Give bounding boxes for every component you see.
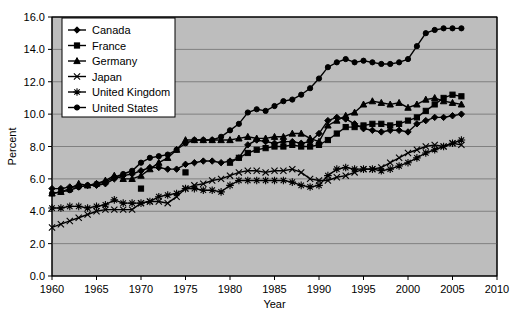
x-tick-label: 1970 <box>129 283 153 295</box>
data-point-france <box>423 108 428 113</box>
data-point-france <box>370 121 375 126</box>
data-point-france <box>183 170 188 175</box>
data-point-united-kingdom <box>422 149 430 157</box>
data-point-united-states <box>112 175 117 180</box>
x-tick-label: 1975 <box>173 283 197 295</box>
data-point-united-kingdom <box>244 177 252 185</box>
data-point-united-states <box>299 92 304 97</box>
legend-label-canada: Canada <box>92 24 131 36</box>
data-point-united-kingdom <box>146 198 154 206</box>
data-point-united-kingdom <box>440 143 448 151</box>
x-tick-label: 1965 <box>84 283 108 295</box>
data-point-united-kingdom <box>200 186 208 194</box>
data-point-united-states <box>85 183 90 188</box>
data-point-united-kingdom <box>315 182 323 190</box>
data-point-france <box>388 123 393 128</box>
data-point-france <box>272 144 277 149</box>
data-point-france <box>299 144 304 149</box>
data-point-united-kingdom <box>271 177 279 185</box>
data-point-united-states <box>397 60 402 65</box>
data-point-united-kingdom <box>111 196 119 204</box>
data-point-united-states <box>219 134 224 139</box>
y-tick-label: 4.0 <box>30 205 45 217</box>
data-point-united-states <box>147 155 152 160</box>
data-point-united-kingdom <box>413 154 421 162</box>
data-point-united-states <box>450 26 455 31</box>
data-point-united-kingdom <box>93 203 101 211</box>
data-point-united-states <box>334 60 339 65</box>
y-tick-label: 12.0 <box>24 76 45 88</box>
x-tick-label: 2000 <box>396 283 420 295</box>
data-point-united-kingdom <box>226 182 234 190</box>
legend-label-japan: Japan <box>92 71 122 83</box>
data-point-united-states <box>459 26 464 31</box>
data-point-united-states <box>290 97 295 102</box>
chart-svg: 0.02.04.06.08.010.012.014.016.0196019651… <box>0 0 517 320</box>
data-point-united-kingdom <box>431 146 439 154</box>
legend-marker-france <box>74 43 79 48</box>
data-point-france <box>245 150 250 155</box>
y-tick-label: 8.0 <box>30 141 45 153</box>
x-tick-label: 1960 <box>40 283 64 295</box>
data-point-united-kingdom <box>324 172 332 180</box>
data-point-united-states <box>254 107 259 112</box>
data-point-united-kingdom <box>404 159 412 167</box>
data-point-united-kingdom <box>458 136 466 144</box>
data-point-united-kingdom <box>208 186 216 194</box>
data-point-united-kingdom <box>182 185 190 193</box>
data-point-france <box>138 186 143 191</box>
data-point-united-states <box>245 110 250 115</box>
data-point-united-states <box>263 108 268 113</box>
data-point-united-states <box>441 26 446 31</box>
data-point-united-kingdom <box>84 204 92 212</box>
data-point-united-states <box>361 58 366 63</box>
y-tick-label: 6.0 <box>30 173 45 185</box>
data-point-france <box>459 94 464 99</box>
data-point-united-states <box>76 184 81 189</box>
data-point-united-kingdom <box>289 178 297 186</box>
data-point-united-states <box>388 61 393 66</box>
data-point-france <box>308 144 313 149</box>
x-axis-title: Year <box>263 298 286 310</box>
data-point-france <box>405 118 410 123</box>
data-point-united-states <box>325 65 330 70</box>
data-point-united-states <box>370 60 375 65</box>
data-point-france <box>325 137 330 142</box>
data-point-united-kingdom <box>369 165 377 173</box>
line-chart: 0.02.04.06.08.010.012.014.016.0196019651… <box>0 0 517 320</box>
data-point-united-kingdom <box>306 183 314 191</box>
data-point-france <box>379 121 384 126</box>
data-point-united-states <box>236 121 241 126</box>
data-point-united-kingdom <box>102 201 110 209</box>
data-point-united-states <box>405 56 410 61</box>
y-tick-label: 16.0 <box>24 11 45 23</box>
data-point-united-kingdom <box>57 204 65 212</box>
legend-label-united-kingdom: United Kingdom <box>92 86 170 98</box>
legend-marker-united-states <box>74 105 79 110</box>
data-point-france <box>236 155 241 160</box>
data-point-united-states <box>227 128 232 133</box>
data-point-united-states <box>316 76 321 81</box>
data-point-united-states <box>352 60 357 65</box>
data-point-united-kingdom <box>164 191 172 199</box>
data-point-united-kingdom <box>66 203 74 211</box>
data-point-united-kingdom <box>333 165 341 173</box>
data-point-united-kingdom <box>128 199 136 207</box>
y-tick-label: 14.0 <box>24 43 45 55</box>
data-point-france <box>432 102 437 107</box>
x-tick-label: 1995 <box>351 283 375 295</box>
data-point-united-kingdom <box>342 164 350 172</box>
data-point-united-kingdom <box>75 203 83 211</box>
data-point-united-states <box>281 99 286 104</box>
legend-marker-united-kingdom <box>73 88 81 96</box>
legend-label-france: France <box>92 40 126 52</box>
data-point-france <box>450 92 455 97</box>
data-point-united-kingdom <box>191 185 199 193</box>
data-point-united-states <box>308 86 313 91</box>
x-tick-label: 1980 <box>218 283 242 295</box>
data-point-united-kingdom <box>262 177 270 185</box>
data-point-france <box>334 131 339 136</box>
data-point-united-states <box>343 56 348 61</box>
y-tick-label: 0.0 <box>30 270 45 282</box>
data-point-united-states <box>121 171 126 176</box>
